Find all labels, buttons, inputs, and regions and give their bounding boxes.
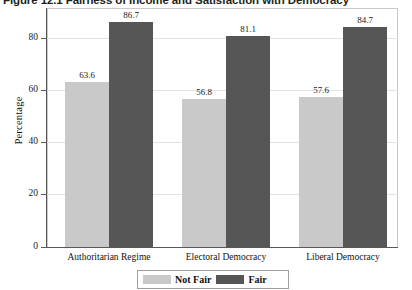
legend-item-not-fair[interactable]: Not Fair (143, 275, 211, 285)
bar-value-liberal-democracy-fair: 84.7 (345, 16, 385, 25)
y-tick-label-20: 20 (8, 189, 38, 199)
y-axis-title: Percentage (13, 66, 24, 176)
bar-authoritarian-regime-fair[interactable] (109, 22, 153, 247)
bar-value-liberal-democracy-not-fair: 57.6 (301, 86, 341, 95)
x-category-liberal-democracy: Liberal Democracy (278, 252, 408, 263)
bar-value-electoral-democracy-fair: 81.1 (228, 25, 268, 34)
bar-value-authoritarian-regime-fair: 86.7 (111, 11, 151, 20)
x-axis-line (46, 247, 398, 248)
bar-value-authoritarian-regime-not-fair: 63.6 (67, 71, 107, 80)
legend-label-fair: Fair (248, 275, 266, 285)
y-axis-line (46, 8, 47, 248)
y-tick-mark-40 (41, 142, 46, 143)
x-category-electoral-democracy: Electoral Democracy (161, 252, 291, 263)
y-tick-mark-20 (41, 194, 46, 195)
bar-electoral-democracy-fair[interactable] (226, 36, 270, 247)
bar-value-electoral-democracy-not-fair: 56.8 (184, 88, 224, 97)
y-tick-mark-60 (41, 90, 46, 91)
legend-label-not-fair: Not Fair (175, 275, 211, 285)
bar-liberal-democracy-not-fair[interactable] (299, 97, 343, 247)
legend-swatch-not-fair-icon (143, 275, 171, 284)
legend-swatch-fair-icon (216, 275, 244, 284)
bar-liberal-democracy-fair[interactable] (343, 27, 387, 247)
bar-authoritarian-regime-not-fair[interactable] (65, 82, 109, 247)
y-tick-label-0: 0 (8, 242, 38, 252)
y-tick-label-80: 80 (8, 33, 38, 43)
legend-item-fair[interactable]: Fair (216, 275, 266, 285)
y-tick-mark-80 (41, 38, 46, 39)
x-category-authoritarian-regime: Authoritarian Regime (44, 252, 174, 263)
legend: Not Fair Fair (137, 270, 289, 289)
figure-title: Figure 12.1 Fairness of Income and Satis… (3, 0, 409, 7)
bar-electoral-democracy-not-fair[interactable] (182, 99, 226, 247)
plot-area: 63.6 86.7 56.8 81.1 57.6 84.7 (47, 8, 398, 247)
